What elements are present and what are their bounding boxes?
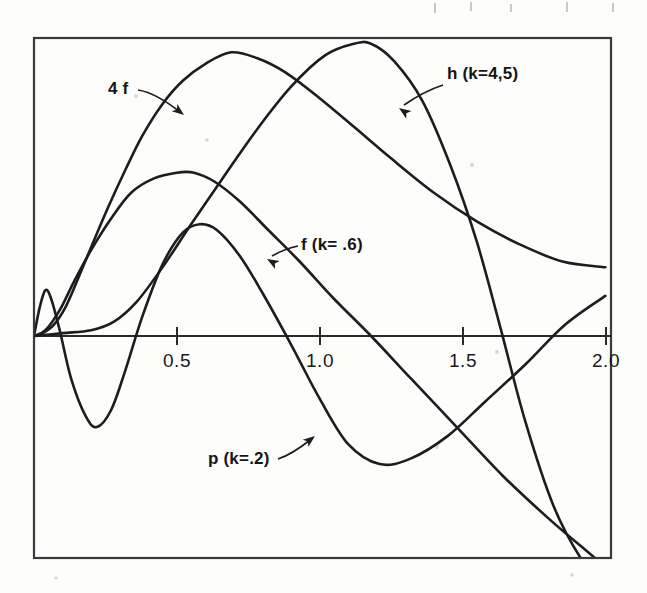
series-annotations: 4 fh (k=4,5)f (k= .6)p (k=.2)	[108, 64, 518, 468]
label-f-arrowhead	[265, 255, 280, 269]
label-p: p (k=.2)	[208, 449, 270, 468]
label-h: h (k=4,5)	[447, 64, 518, 83]
x-tick-label-2.0: 2.0	[592, 350, 620, 371]
label-p-leader	[278, 440, 310, 459]
label-f: f (k= .6)	[301, 235, 363, 254]
data-curves	[34, 42, 605, 587]
plot-frame	[34, 38, 611, 558]
plot-canvas: 0.51.01.52.0 4 fh (k=4,5)f (k= .6)p (k=.…	[0, 0, 647, 593]
x-tick-label-1.0: 1.0	[306, 350, 334, 371]
curve-h-k-4-5	[34, 42, 605, 587]
label-h-arrowhead	[396, 104, 411, 118]
label-4f: 4 f	[108, 79, 129, 98]
label-4f-arrowhead	[172, 104, 187, 119]
figure-container: 0.51.01.52.0 4 fh (k=4,5)f (k= .6)p (k=.…	[0, 0, 647, 593]
x-tick-label-0.5: 0.5	[163, 350, 191, 371]
x-tick-label-1.5: 1.5	[449, 350, 477, 371]
x-axis-tick-labels: 0.51.01.52.0	[163, 350, 620, 371]
scan-artifacts	[54, 2, 614, 580]
annotation-leaders	[138, 85, 443, 459]
